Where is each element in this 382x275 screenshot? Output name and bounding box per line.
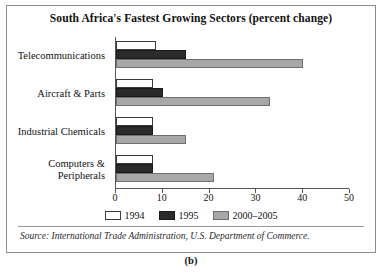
bar — [116, 155, 153, 164]
bar-group — [116, 37, 349, 75]
legend-label: 1994 — [125, 210, 145, 221]
x-axis-tick-label: 30 — [250, 192, 260, 203]
figure-panel: South Africa's Fastest Growing Sectors (… — [0, 0, 382, 275]
category-axis-labels: TelecommunicationsAircraft & PartsIndust… — [0, 37, 110, 189]
bar — [116, 97, 270, 106]
chart-legend: 199419952000–2005 — [6, 210, 376, 221]
bar — [116, 173, 214, 182]
bar-group — [116, 75, 349, 113]
category-label-line: Telecommunications — [0, 50, 105, 62]
bar — [116, 164, 153, 173]
legend-item: 1994 — [105, 210, 145, 221]
legend-swatch-icon — [159, 211, 175, 220]
category-label-line: Aircraft & Parts — [0, 88, 105, 100]
x-axis-tick-labels: 01020304050 — [115, 192, 349, 206]
bar — [116, 126, 153, 135]
category-label-line: Industrial Chemicals — [0, 126, 105, 138]
category-label: Computers &Peripherals — [0, 158, 105, 181]
legend-label: 2000–2005 — [233, 210, 278, 221]
category-label-line: Computers & — [0, 158, 105, 170]
chart-title: South Africa's Fastest Growing Sectors (… — [6, 12, 376, 24]
legend-label: 1995 — [179, 210, 199, 221]
panel-letter: (b) — [6, 255, 376, 266]
x-axis-tick-label: 10 — [157, 192, 167, 203]
bar — [116, 117, 153, 126]
bar — [116, 50, 186, 59]
x-axis-tick-label: 0 — [113, 192, 118, 203]
legend-item: 1995 — [159, 210, 199, 221]
bar — [116, 41, 156, 50]
bar-group — [116, 113, 349, 151]
x-axis-tick-label: 20 — [204, 192, 214, 203]
legend-swatch-icon — [213, 211, 229, 220]
source-note: Source: International Trade Administrati… — [20, 231, 364, 241]
legend-swatch-icon — [105, 211, 121, 220]
legend-item: 2000–2005 — [213, 210, 278, 221]
plot-area — [115, 37, 349, 189]
bar-group — [116, 151, 349, 189]
category-label: Industrial Chemicals — [0, 126, 105, 138]
x-axis-tick-label: 40 — [297, 192, 307, 203]
x-axis-tick-label: 50 — [344, 192, 354, 203]
category-label-line: Peripherals — [0, 170, 105, 182]
divider — [18, 226, 364, 227]
bar — [116, 59, 303, 68]
category-label: Telecommunications — [0, 50, 105, 62]
bar — [116, 79, 153, 88]
bar — [116, 135, 186, 144]
category-label: Aircraft & Parts — [0, 88, 105, 100]
bar — [116, 88, 163, 97]
